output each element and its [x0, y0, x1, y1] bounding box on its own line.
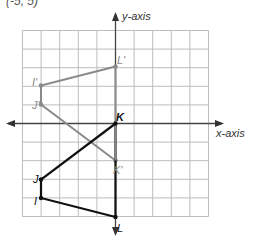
vertex-label-l: L — [117, 222, 123, 234]
vertex-label-k: K — [116, 111, 125, 123]
x-axis-right-arrow-icon — [215, 120, 224, 127]
vertex-label-l-prime: L' — [117, 54, 126, 66]
coordinate-plane: y-axis x-axis L' I' J' K K' J I L — [0, 0, 253, 240]
vertex-label-i: I — [34, 195, 37, 207]
vertex-label-i-prime: I' — [32, 76, 38, 88]
x-axis-left-arrow-icon — [6, 120, 15, 127]
vertex-label-j: J — [32, 173, 39, 185]
vertex-label-k-prime: K' — [113, 164, 123, 176]
y-axis-label: y-axis — [121, 10, 151, 22]
y-axis-up-arrow-icon — [112, 12, 119, 21]
x-axis-label: x-axis — [215, 127, 245, 139]
vertex-label-j-prime: J' — [31, 99, 41, 111]
